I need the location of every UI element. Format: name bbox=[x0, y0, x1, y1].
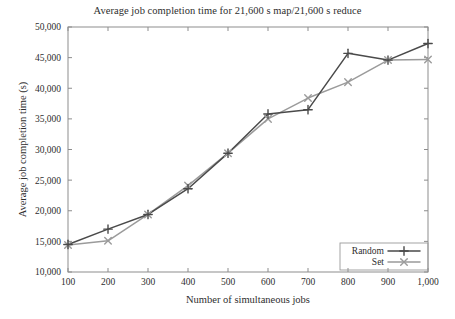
data-point-random bbox=[104, 225, 112, 233]
x-axis-tick-label: 100 bbox=[61, 277, 76, 287]
x-axis-tick-label: 800 bbox=[341, 277, 356, 287]
y-axis-tick-label: 25,000 bbox=[35, 176, 61, 186]
series-line-set bbox=[68, 59, 428, 245]
y-axis-title: Average job completion time (s) bbox=[17, 81, 29, 217]
x-axis-tick-label: 200 bbox=[101, 277, 116, 287]
chart-figure: Average job completion time for 21,600 s… bbox=[0, 0, 455, 319]
legend-label-random: Random bbox=[352, 246, 385, 256]
data-point-random bbox=[424, 39, 432, 47]
y-axis-tick-label: 15,000 bbox=[35, 237, 61, 247]
y-axis-tick-label: 50,000 bbox=[35, 22, 61, 32]
y-axis-tick-label: 20,000 bbox=[35, 206, 61, 216]
chart-legend: RandomSet bbox=[340, 243, 428, 270]
x-axis-tick-label: 400 bbox=[181, 277, 196, 287]
series-line-random bbox=[68, 44, 428, 245]
series-layer bbox=[64, 39, 432, 248]
x-axis-tick-label: 500 bbox=[221, 277, 236, 287]
data-point-set bbox=[345, 79, 352, 86]
plot-frame bbox=[68, 27, 428, 272]
x-axis-tick-label: 900 bbox=[381, 277, 396, 287]
x-axis-tick-label: 600 bbox=[261, 277, 276, 287]
y-axis-tick-label: 45,000 bbox=[35, 53, 61, 63]
x-axis-title: Number of simultaneous jobs bbox=[186, 294, 310, 305]
y-axis-tick-label: 30,000 bbox=[35, 145, 61, 155]
y-axis-tick-label: 35,000 bbox=[35, 114, 61, 124]
y-axis-tick-label: 40,000 bbox=[35, 84, 61, 94]
plot-area: 10,00015,00020,00025,00030,00035,00040,0… bbox=[0, 0, 455, 319]
x-axis-tick-label: 300 bbox=[141, 277, 156, 287]
x-axis-tick-label: 1,000 bbox=[417, 277, 439, 287]
data-point-set bbox=[305, 95, 312, 102]
legend-label-set: Set bbox=[372, 257, 385, 267]
x-axis-tick-label: 700 bbox=[301, 277, 316, 287]
legend-marker-random bbox=[400, 247, 408, 255]
y-axis-tick-label: 10,000 bbox=[35, 267, 61, 277]
